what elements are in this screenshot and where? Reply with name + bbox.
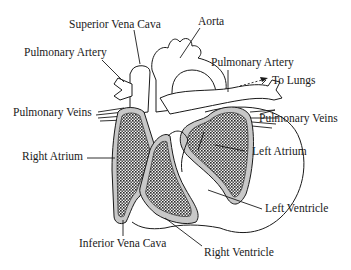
label-to-lungs: To Lungs [272, 75, 316, 87]
to-lungs-arrowhead [260, 77, 268, 82]
label-pulmonary-veins-right: Pulmonary Veins [259, 113, 338, 125]
label-left-atrium: Left Atrium [252, 146, 307, 158]
label-pulmonary-veins-left: Pulmonary Veins [13, 107, 92, 119]
label-superior-vena-cava: Superior Vena Cava [69, 19, 161, 31]
label-left-ventricle: Left Ventricle [265, 203, 328, 215]
label-pulmonary-artery-right: Pulmonary Artery [211, 57, 294, 69]
superior-vena-cava-shape [130, 66, 150, 114]
label-right-ventricle: Right Ventricle [204, 247, 274, 259]
label-pulmonary-artery-left: Pulmonary Artery [24, 47, 107, 59]
heart-illustration [0, 0, 351, 270]
label-right-atrium: Right Atrium [22, 151, 83, 163]
label-aorta: Aorta [198, 16, 224, 28]
label-inferior-vena-cava: Inferior Vena Cava [79, 238, 166, 250]
heart-diagram: Superior Vena Cava Aorta Pulmonary Arter… [0, 0, 351, 270]
